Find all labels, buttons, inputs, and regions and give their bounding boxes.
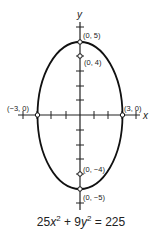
eq-coef-y: 9	[74, 215, 81, 229]
point-0-5-marker	[78, 40, 82, 44]
point-label-0-neg4: (0, −4)	[83, 165, 105, 174]
point-0-neg5-marker	[78, 187, 82, 191]
point-label-neg3-0: (−3, 0)	[7, 104, 29, 113]
y-axis-label: y	[76, 9, 83, 20]
point-0-4-marker	[78, 54, 82, 58]
point-label-0-5: (0, 5)	[83, 31, 101, 40]
point-label-3-0: (3, 0)	[124, 104, 142, 113]
ellipse-equation: 25x2 + 9y2 = 225	[0, 214, 162, 229]
eq-plus: +	[61, 215, 75, 229]
eq-coef-x: 25	[37, 215, 50, 229]
x-axis-label: x	[142, 110, 149, 121]
eq-rhs: = 225	[91, 215, 125, 229]
point-label-0-4: (0, 4)	[84, 58, 102, 67]
point-neg3-0-marker	[35, 113, 39, 117]
point-0-neg4-marker	[78, 172, 82, 176]
point-label-0-neg5: (0, −5)	[83, 193, 105, 202]
point-3-0-marker	[120, 113, 124, 117]
ellipse-graph: y x (0, 5) (0, 4) (−3, 0) (3, 0) (0, −4)…	[0, 0, 162, 237]
